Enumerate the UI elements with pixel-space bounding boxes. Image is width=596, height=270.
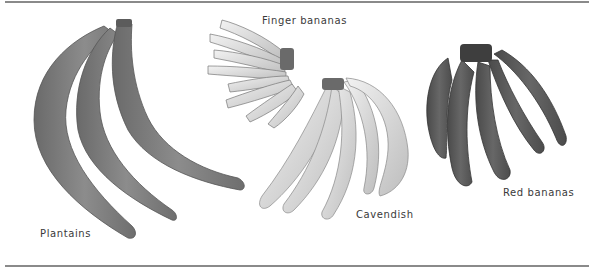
plantains-image (34, 19, 244, 238)
bottom-rule (5, 265, 589, 267)
red-bananas-label: Red bananas (503, 187, 574, 198)
cavendish-label: Cavendish (356, 209, 414, 220)
finger-bananas-image (208, 20, 304, 128)
plantains-label: Plantains (40, 228, 91, 239)
red-bananas-image (427, 44, 567, 186)
finger-bananas-label: Finger bananas (262, 15, 347, 26)
